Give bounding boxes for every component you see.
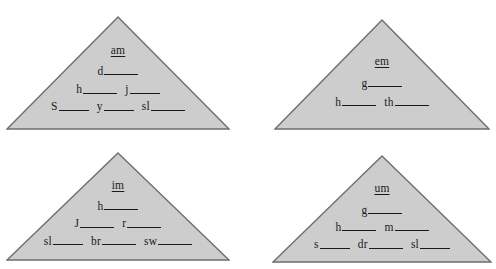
pyramid-am: am d h j S y sl [6, 16, 230, 130]
triangle-shape-im [6, 152, 230, 261]
pyramid-im: im h J r sl br sw [6, 152, 230, 261]
triangle-shape-am [6, 16, 230, 130]
word-family-pyramids-worksheet: am d h j S y sl em g [0, 0, 496, 269]
triangle-shape-em [274, 19, 490, 130]
pyramid-em: em g h th [274, 19, 490, 130]
triangle-shape-um [272, 155, 492, 263]
pyramid-um: um g h m s dr sl [272, 155, 492, 263]
